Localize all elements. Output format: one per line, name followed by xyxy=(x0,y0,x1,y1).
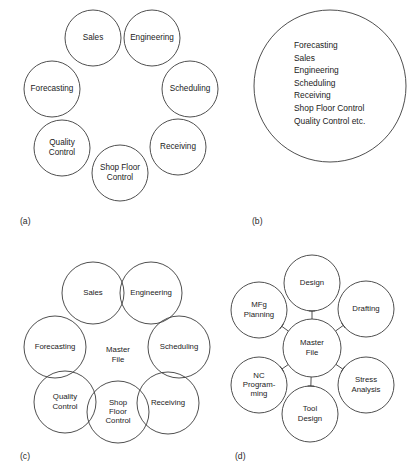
label-line: Design xyxy=(300,278,324,287)
label-line: Control xyxy=(107,173,134,182)
label-design: Design xyxy=(300,278,324,287)
panel-d-cad-master-file: DesignDraftingStressAnalysisToolDesignNC… xyxy=(231,255,394,442)
database-contents-line: Engineering xyxy=(294,65,339,75)
connector-stress-analysis xyxy=(336,364,343,369)
label-line: Forecasting xyxy=(31,84,74,93)
label-line: Sales xyxy=(83,288,103,297)
label-line: Receiving xyxy=(160,142,196,151)
label-line: NC xyxy=(253,371,265,380)
label-engineering: Engineering xyxy=(130,33,174,42)
label-line: Shop xyxy=(109,398,128,407)
label-line: Shop Floor xyxy=(100,163,140,172)
database-contents-line: Receiving xyxy=(294,91,331,101)
label-sales: Sales xyxy=(83,33,103,42)
label-line: Floor xyxy=(109,407,127,416)
label-engineering: Engineering xyxy=(130,288,172,297)
label-line: Analysis xyxy=(351,385,380,394)
label-line: Quality xyxy=(49,138,75,147)
label-line: File xyxy=(112,355,125,364)
panel-tag-a: (a) xyxy=(20,216,31,226)
figure-container: SalesEngineeringSchedulingReceivingShop … xyxy=(0,0,412,476)
panel-tag-b: (b) xyxy=(252,216,263,226)
label-line: Scheduling xyxy=(170,84,211,93)
database-contents-line: Shop Floor Control xyxy=(294,103,364,113)
panel-tag-d: (d) xyxy=(235,451,246,461)
label-quality-control: QualityControl xyxy=(52,392,77,410)
label-master-file: MasterFile xyxy=(106,345,130,364)
label-line: Scheduling xyxy=(160,342,199,351)
label-master-file: MasterFile xyxy=(300,338,324,357)
database-contents-line: Sales xyxy=(294,53,315,63)
label-line: Receiving xyxy=(151,398,185,407)
label-line: Control xyxy=(49,148,76,157)
label-line: ming xyxy=(251,389,268,398)
label-receiving: Receiving xyxy=(160,142,196,151)
database-contents-line: Scheduling xyxy=(294,78,336,88)
label-line: Stress xyxy=(355,375,377,384)
label-line: MFg xyxy=(251,300,267,309)
label-shop-floor-control: Shop FloorControl xyxy=(100,163,140,182)
label-line: Control xyxy=(52,402,77,411)
connector-nc-programming xyxy=(282,365,288,369)
label-line: Tool xyxy=(303,404,318,413)
database-contents-line: Forecasting xyxy=(294,40,338,50)
panel-c-overlapping-master-file: SalesEngineeringSchedulingReceivingShopF… xyxy=(24,262,210,443)
connector-drafting xyxy=(336,325,344,331)
label-line: Control xyxy=(105,416,130,425)
label-line: Sales xyxy=(83,33,103,42)
label-line: Master xyxy=(300,338,324,347)
label-line: File xyxy=(306,348,319,357)
panel-a-separate-files: SalesEngineeringSchedulingReceivingShop … xyxy=(24,10,218,201)
label-line: Design xyxy=(298,414,322,423)
connector-cap-nc-programming xyxy=(280,366,284,371)
label-line: Quality xyxy=(53,392,77,401)
label-receiving: Receiving xyxy=(151,398,185,407)
connector-cap-stress-analysis xyxy=(341,367,345,372)
label-forecasting: Forecasting xyxy=(31,84,74,93)
label-nc-programming: NCProgram-ming xyxy=(243,371,276,398)
label-line: Drafting xyxy=(352,304,379,313)
label-shop-floor-control: ShopFloorControl xyxy=(105,398,130,425)
label-tool-design: ToolDesign xyxy=(298,404,322,422)
label-scheduling: Scheduling xyxy=(160,342,199,351)
connector-mfg-planning xyxy=(282,326,289,331)
connector-cap-mfg-planning xyxy=(280,324,284,329)
label-line: Engineering xyxy=(130,33,174,42)
label-quality-control: QualityControl xyxy=(49,138,76,157)
label-line: Program- xyxy=(243,380,276,389)
label-mfg-planning: MFgPlanning xyxy=(244,300,274,318)
panel-b-single-database: ForecastingSalesEngineeringSchedulingRec… xyxy=(254,10,406,162)
database-contents-list: ForecastingSalesEngineeringSchedulingRec… xyxy=(294,40,365,126)
database-contents-line: Quality Control etc. xyxy=(294,116,365,126)
label-line: Engineering xyxy=(130,288,172,297)
panel-tag-group: (a)(b)(c)(d) xyxy=(20,216,263,461)
label-line: Forecasting xyxy=(35,342,76,351)
label-forecasting: Forecasting xyxy=(35,342,76,351)
label-stress-analysis: StressAnalysis xyxy=(351,375,380,393)
label-scheduling: Scheduling xyxy=(170,84,211,93)
label-sales: Sales xyxy=(83,288,103,297)
label-drafting: Drafting xyxy=(352,304,379,313)
diagram-canvas: SalesEngineeringSchedulingReceivingShop … xyxy=(0,0,412,476)
panel-tag-c: (c) xyxy=(20,451,30,461)
connector-cap-drafting xyxy=(341,323,345,328)
label-line: Master xyxy=(106,345,130,354)
label-line: Planning xyxy=(244,310,274,319)
